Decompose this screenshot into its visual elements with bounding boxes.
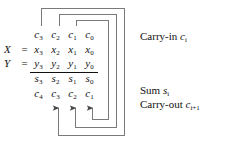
carry-in-digits: c3 c2 c1 c0 xyxy=(30,27,98,43)
annotation-sum-symbol: si xyxy=(163,84,169,96)
y-equals-sign: = xyxy=(19,56,30,70)
addition-block: c3 c2 c1 c0 X = x3 x2 x1 x0 Y = y3 y2 xyxy=(4,27,108,100)
cell-c3: c3 xyxy=(30,27,47,43)
cell-s1: s1 xyxy=(64,71,81,87)
annotation-carry-out: Carry-out ci+1 xyxy=(140,98,200,113)
figure-canvas: c3 c2 c1 c0 X = x3 x2 x1 x0 Y = y3 y2 xyxy=(0,0,225,141)
annotation-carry-in-text: Carry-in xyxy=(140,30,177,42)
x-label: X xyxy=(4,42,19,56)
cell-c1-out: c1 xyxy=(81,86,98,102)
cell-y1: y1 xyxy=(64,56,81,72)
annotation-carry-in-symbol: ci xyxy=(180,30,187,42)
cell-s0: s0 xyxy=(81,71,98,87)
cell-c4-out: c4 xyxy=(30,86,47,102)
carry-out-row: c4 c3 c2 c1 xyxy=(4,86,108,100)
y-label: Y xyxy=(4,56,19,70)
sum-digits: s3 s2 s1 s0 xyxy=(30,71,98,87)
cell-s3: s3 xyxy=(30,71,47,87)
annotation-sum: Sum si xyxy=(140,84,169,99)
sum-row: s3 s2 s1 s0 xyxy=(4,71,108,85)
annotation-carry-in: Carry-in ci xyxy=(140,30,187,45)
cell-c2-out: c2 xyxy=(64,86,81,102)
cell-c0: c0 xyxy=(81,27,98,43)
cell-y2: y2 xyxy=(47,56,64,72)
cell-s2: s2 xyxy=(47,71,64,87)
cell-c1: c1 xyxy=(64,27,81,43)
carry-out-digits: c4 c3 c2 c1 xyxy=(30,86,98,102)
cell-c3-out: c3 xyxy=(47,86,64,102)
cell-y0: y0 xyxy=(81,56,98,72)
cell-c2: c2 xyxy=(47,27,64,43)
annotation-carry-out-symbol: ci+1 xyxy=(186,98,200,110)
annotation-sum-text: Sum xyxy=(140,84,160,96)
cell-y3: y3 xyxy=(30,56,47,72)
carry-in-row: c3 c2 c1 c0 xyxy=(4,27,108,41)
x-equals-sign: = xyxy=(19,42,30,56)
x-operand-row: X = x3 x2 x1 x0 xyxy=(4,42,108,56)
y-operand-row: Y = y3 y2 y1 y0 xyxy=(4,56,108,70)
annotation-carry-out-text: Carry-out xyxy=(140,98,183,110)
